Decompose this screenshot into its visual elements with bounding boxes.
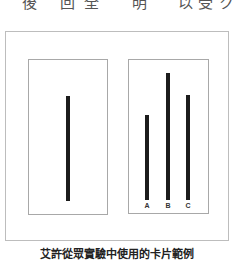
line-label-b: B [163,202,173,209]
text-char: 全 [84,0,99,12]
line-label-a: A [142,202,152,209]
text-char: 回 [60,0,75,12]
text-char: ク [219,0,234,12]
text-char: 明 [132,0,147,12]
line-label-c: C [183,202,193,209]
comparison-line-c [186,95,190,200]
text-char: 以 [178,0,193,12]
text-char: 後 [22,0,37,12]
comparison-line-a [145,115,149,200]
figure-caption: 艾許從眾實驗中使用的卡片範例 [0,245,233,261]
reference-line [66,96,70,201]
text-char: 受 [198,0,213,12]
comparison-line-b [166,73,170,200]
cropped-body-text: 後 回 全 明 以 受 ク [0,0,233,11]
